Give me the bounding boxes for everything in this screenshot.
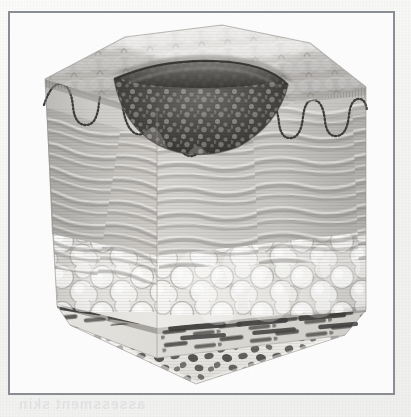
figure-inner-area bbox=[10, 13, 393, 393]
bleed-through-text-bottom: assessment skin bbox=[18, 396, 145, 412]
scanned-page: wound bed yellow tissue the wound assess… bbox=[0, 0, 411, 417]
skin-cross-section-illustration bbox=[10, 13, 393, 393]
artwork-grain-overlay bbox=[10, 13, 393, 393]
tissue-block-svg bbox=[10, 13, 393, 393]
figure-frame bbox=[8, 11, 395, 395]
